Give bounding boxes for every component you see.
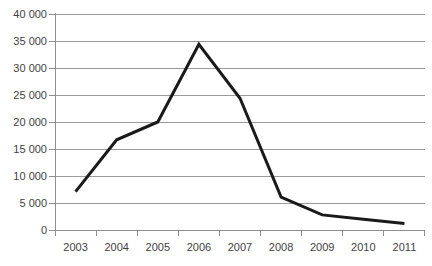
y-axis-label-20000: 20 000 [1,117,47,128]
y-axis-label-30000: 30 000 [1,63,47,74]
x-tick-0 [55,231,56,236]
x-tick-9 [424,231,425,236]
x-axis-tick-labels: 2003 2004 2005 2006 2007 2008 2009 2010 … [55,240,425,256]
x-tick-1 [96,231,97,236]
x-tick-3 [178,231,179,236]
y-tick-5000 [49,203,55,204]
x-tick-6 [301,231,302,236]
x-axis-label-2010: 2010 [343,240,384,256]
y-tick-25000 [49,95,55,96]
line-chart: 40 000 35 000 30 000 25 000 20 000 15 00… [0,0,432,266]
y-tick-20000 [49,122,55,123]
x-tick-8 [383,231,384,236]
y-axis-label-40000: 40 000 [1,9,47,20]
x-tick-4 [219,231,220,236]
x-axis-label-2008: 2008 [261,240,302,256]
x-tick-7 [342,231,343,236]
x-axis-label-2003: 2003 [55,240,96,256]
y-axis-label-0: 0 [1,225,47,236]
y-tick-30000 [49,68,55,69]
y-axis-label-10000: 10 000 [1,171,47,182]
x-axis-label-2006: 2006 [178,240,219,256]
x-tick-5 [260,231,261,236]
y-axis-tick-labels: 40 000 35 000 30 000 25 000 20 000 15 00… [0,0,47,266]
y-tick-35000 [49,41,55,42]
x-axis-label-2011: 2011 [384,240,425,256]
x-axis-label-2009: 2009 [302,240,343,256]
y-axis-line [55,13,56,231]
x-axis-line [55,230,425,231]
y-axis-label-25000: 25 000 [1,90,47,101]
y-axis-label-35000: 35 000 [1,36,47,47]
plot-area [55,14,425,230]
y-tick-10000 [49,176,55,177]
y-tick-15000 [49,149,55,150]
y-axis-label-15000: 15 000 [1,144,47,155]
x-axis-label-2005: 2005 [137,240,178,256]
x-axis-label-2004: 2004 [96,240,137,256]
data-series-line [55,14,425,230]
x-axis-label-2007: 2007 [219,240,260,256]
y-axis-label-5000: 5 000 [1,198,47,209]
y-tick-40000 [49,14,55,15]
x-tick-2 [137,231,138,236]
